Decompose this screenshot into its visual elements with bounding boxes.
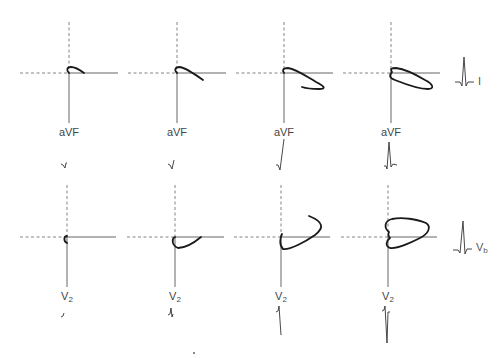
ecg-complex-avf-1 bbox=[61, 163, 67, 168]
axis-label-avf: aVF bbox=[167, 126, 187, 138]
side-lead-label-vb: Vb bbox=[476, 241, 488, 255]
axis-label-avf: aVF bbox=[59, 126, 79, 138]
panel-horizontal-4 bbox=[341, 185, 437, 287]
axis-label-v2: V2 bbox=[61, 290, 73, 304]
panel-frontal-1 bbox=[20, 22, 118, 123]
vector-loop bbox=[283, 68, 324, 89]
panel-horizontal-2 bbox=[127, 185, 224, 287]
ecg-complex-v2-3 bbox=[276, 306, 281, 335]
row-horizontal: V2 V2 V2 V2 Vb bbox=[20, 185, 488, 343]
axis-label-avf: aVF bbox=[381, 126, 401, 138]
ecg-complex-avf-4 bbox=[384, 142, 397, 169]
ecg-complex-avf-2 bbox=[168, 160, 174, 169]
panel-frontal-2 bbox=[128, 22, 226, 123]
ecg-complex-v2-2 bbox=[168, 308, 173, 317]
ecg-complex-lead-vb bbox=[453, 221, 472, 254]
row-frontal: aVF aVF aVF aVF I bbox=[20, 22, 481, 170]
ecg-complex-lead-i bbox=[455, 57, 474, 86]
ecg-complex-v2-4 bbox=[382, 306, 390, 343]
vector-loop bbox=[280, 216, 321, 249]
ecg-complex-v2-1 bbox=[61, 313, 64, 317]
vector-loop bbox=[173, 237, 201, 248]
vector-loop bbox=[175, 67, 203, 80]
side-lead-label-i: I bbox=[478, 75, 481, 87]
panel-horizontal-1 bbox=[20, 185, 116, 287]
panel-frontal-4 bbox=[343, 22, 440, 123]
vector-loop bbox=[386, 218, 429, 248]
vector-loop bbox=[390, 68, 432, 89]
panel-horizontal-3 bbox=[234, 185, 330, 287]
vectorcardiogram-diagram: .dash { stroke: #777; stroke-width: 0.9;… bbox=[0, 0, 501, 358]
axis-label-v2: V2 bbox=[275, 290, 287, 304]
vector-loop bbox=[67, 67, 84, 73]
axis-label-avf: aVF bbox=[274, 126, 294, 138]
axis-label-v2: V2 bbox=[382, 290, 394, 304]
axis-label-v2: V2 bbox=[169, 290, 181, 304]
panel-frontal-3 bbox=[236, 22, 333, 123]
ecg-complex-avf-3 bbox=[276, 139, 284, 170]
artifact-mark bbox=[193, 352, 195, 354]
